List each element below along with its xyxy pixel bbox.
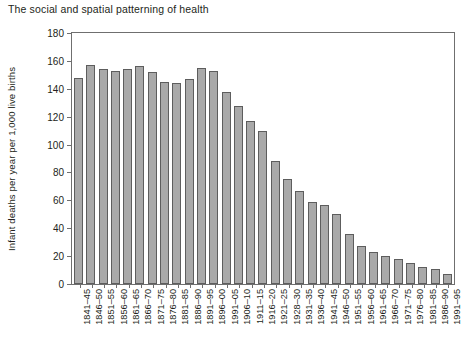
x-axis-label-cell: 1956–60 [357,289,366,343]
y-axis-tick-label: 180 [47,28,64,39]
x-axis-label-cell: 1881–85 [172,289,181,343]
bar [111,71,120,284]
x-axis-label-cell: 1931–35 [295,289,304,343]
bar [308,202,317,284]
bar [381,256,390,284]
x-axis-tick [338,284,339,288]
x-axis-tick [362,284,363,288]
x-axis-label-cell: 1861–65 [122,289,131,343]
x-axis-label-cell: 1981–85 [419,289,428,343]
y-axis-tick-label: 120 [47,111,64,122]
y-axis-tick-label: 80 [53,167,64,178]
x-axis-label-cell: 1856–60 [110,289,119,343]
x-axis-tick [276,284,277,288]
x-axis-label-cell: 1941–45 [320,289,329,343]
x-axis-tick [289,284,290,288]
bar [418,267,427,284]
x-axis-label-cell: 1846–50 [85,289,94,343]
x-axis-label-cell: 1928–30 [283,289,292,343]
x-axis-tick [239,284,240,288]
x-axis-tick [129,284,130,288]
x-axis-tick [202,284,203,288]
bar [320,205,329,284]
bar [394,259,403,284]
x-axis-tick [80,284,81,288]
bar [369,252,378,284]
bar [172,83,181,284]
x-axis-label-cell: 1906–10 [234,289,243,343]
x-axis-tick [436,284,437,288]
bar [209,71,218,284]
x-axis-tick [92,284,93,288]
infant-mortality-bar-chart: The social and spatial patterning of hea… [0,0,467,345]
y-axis-label-text: Infant deaths per year per 1,000 live bi… [6,66,17,250]
x-axis-label-cell: 1891–95 [197,289,206,343]
y-axis-tick [67,284,72,285]
x-axis-tick [153,284,154,288]
x-axis-label-cell: 1911–15 [246,289,255,343]
bar [234,106,243,284]
x-axis-tick [190,284,191,288]
bar [406,263,415,284]
x-axis-tick [448,284,449,288]
x-axis-tick [412,284,413,288]
bar [123,69,132,284]
bar [357,246,366,284]
bar [135,66,144,284]
bar [283,179,292,284]
y-axis-tick-label: 60 [53,195,64,206]
bars-layer [72,33,454,284]
x-axis-tick [301,284,302,288]
x-axis-tick [264,284,265,288]
x-axis-label-cell: 1991–05 [221,289,230,343]
bar [185,79,194,284]
x-axis-tick [116,284,117,288]
x-axis-label-cell: 1851–55 [98,289,107,343]
x-axis-label-cell: 1951–55 [345,289,354,343]
x-axis-tick [215,284,216,288]
x-axis-label-cell: 1961–65 [370,289,379,343]
x-axis-tick [313,284,314,288]
bar [271,161,280,284]
x-axis-tick [325,284,326,288]
x-axis-label-cell: 1936–40 [308,289,317,343]
x-axis-label-cell: 1966–70 [382,289,391,343]
bar [74,78,83,284]
bar [443,274,452,284]
x-axis-tick [399,284,400,288]
x-axis-tick [166,284,167,288]
x-axis-tick [227,284,228,288]
x-axis-tick [424,284,425,288]
bar [246,121,255,284]
y-axis-tick-label: 20 [53,251,64,262]
x-axis-tick [178,284,179,288]
x-axis-label-cell: 1976–80 [407,289,416,343]
x-axis-label-cell: 1991–95 [444,289,453,343]
x-axis-tick [350,284,351,288]
x-axis-label-cell: 1971–75 [394,289,403,343]
y-axis-tick-label: 40 [53,223,64,234]
bar [345,234,354,284]
x-axis-tick [252,284,253,288]
bar [258,131,267,284]
x-axis-tick [387,284,388,288]
x-axis-tick-label: 1991–95 [453,289,462,325]
bar [160,82,169,284]
x-axis-label-cell: 1876–80 [160,289,169,343]
x-axis-label-cell: 1866–70 [135,289,144,343]
x-axis-label-cell: 1841–45 [73,289,82,343]
x-axis-label-cell: 1986–90 [431,289,440,343]
x-axis-label-cell: 1871–75 [147,289,156,343]
x-axis-label-cell: 1946–50 [333,289,342,343]
x-axis-label-cell: 1886–90 [184,289,193,343]
x-axis-tick [141,284,142,288]
plot-area: 020406080100120140160180 [71,32,455,285]
y-axis-tick-label: 140 [47,83,64,94]
page-title: The social and spatial patterning of hea… [8,3,209,15]
bar [197,68,206,284]
x-axis-labels: 1841–451846–501851–551856–601861–651866–… [71,289,455,343]
bar [431,269,440,284]
x-axis-tick [104,284,105,288]
bar [148,72,157,284]
bar [222,92,231,284]
